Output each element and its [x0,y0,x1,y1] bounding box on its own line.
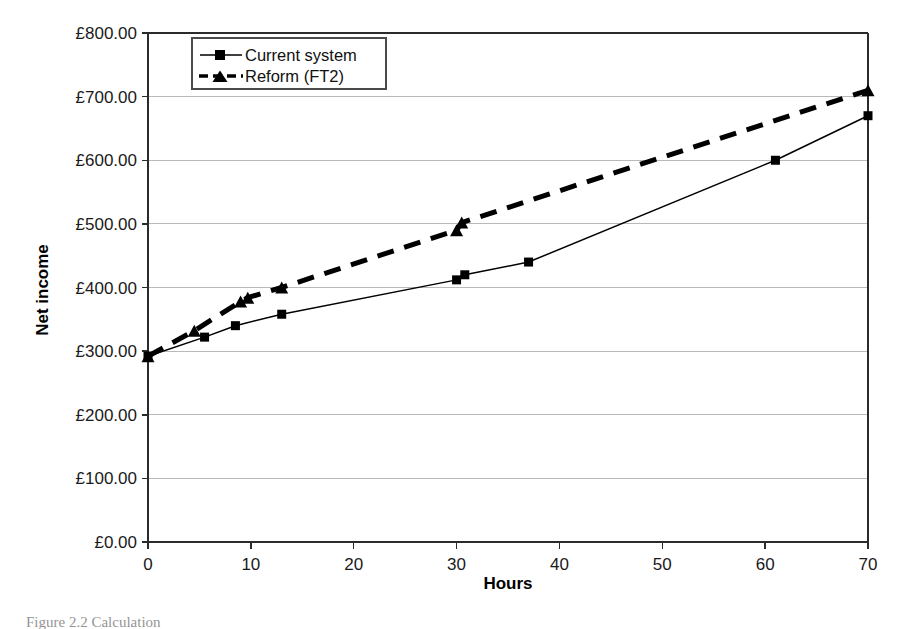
data-point-square-icon [231,321,240,330]
legend-marker-square-icon [215,50,225,60]
data-point-square-icon [277,310,286,319]
x-tick-label: 0 [143,555,152,574]
y-tick-label: £100.00 [76,469,137,488]
x-tick-label: 40 [550,555,569,574]
legend-label-reform: Reform (FT2) [245,67,344,85]
data-point-square-icon [864,111,873,120]
x-tick-label: 60 [756,555,775,574]
y-tick-label: £500.00 [76,215,137,234]
figure-caption: Figure 2.2 Calculation [26,615,161,629]
x-tick-label: 50 [653,555,672,574]
y-tick-label: £400.00 [76,279,137,298]
y-tick-label: £800.00 [76,24,137,43]
data-point-square-icon [771,156,780,165]
y-tick-label: £700.00 [76,88,137,107]
x-tick-label: 70 [859,555,878,574]
chart-legend: Current system Reform (FT2) [192,38,386,89]
y-tick-label: £200.00 [76,406,137,425]
y-axis-title: Net income [33,244,52,336]
y-axis: £0.00£100.00£200.00£300.00£400.00£500.00… [76,24,148,552]
x-tick-label: 20 [344,555,363,574]
data-point-square-icon [524,258,533,267]
y-tick-label: £0.00 [94,533,137,552]
x-axis: 010203040506070 [143,542,877,574]
data-point-square-icon [460,270,469,279]
net-income-line-chart: £0.00£100.00£200.00£300.00£400.00£500.00… [0,0,909,629]
y-tick-label: £300.00 [76,342,137,361]
data-point-square-icon [452,275,461,284]
data-point-square-icon [200,333,209,342]
y-tick-label: £600.00 [76,151,137,170]
figure-container: £0.00£100.00£200.00£300.00£400.00£500.00… [0,0,909,629]
x-tick-label: 30 [447,555,466,574]
legend-label-current-system: Current system [245,46,357,64]
x-axis-title: Hours [483,574,532,593]
x-tick-label: 10 [241,555,260,574]
